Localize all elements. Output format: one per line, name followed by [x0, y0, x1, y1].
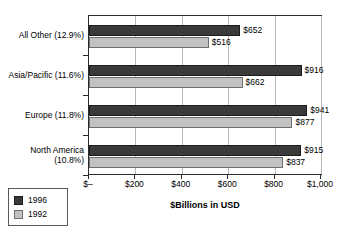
bar-chart: $652$516$916$662$941$877$915$837 All Oth…	[0, 0, 343, 232]
legend-label: 1992	[28, 209, 47, 219]
category-label-3: North America (10.8%)	[0, 145, 84, 165]
x-axis-tick-label: $–	[83, 179, 92, 189]
bar-1992-0	[89, 37, 209, 48]
x-axis-title: $Billions in USD	[88, 200, 322, 210]
bar-value-label: $837	[286, 157, 305, 168]
bar-value-label: $916	[305, 65, 324, 76]
legend: 19961992	[8, 188, 68, 226]
plot-area: $652$516$916$662$941$877$915$837	[88, 15, 322, 175]
bar-value-label: $516	[212, 37, 231, 48]
x-axis-tick-label: $400	[171, 179, 190, 189]
bar-group: $916$662	[89, 56, 321, 96]
x-axis-tick-label: $200	[125, 179, 144, 189]
category-label-1: Asia/Pacific (11.6%)	[0, 70, 84, 80]
x-axis-tick-label: $600	[218, 179, 237, 189]
bar-value-label: $877	[295, 117, 314, 128]
clipped-title-text	[0, 0, 343, 5]
bar-value-label: $652	[243, 25, 262, 36]
legend-swatch-icon	[14, 210, 23, 219]
bar-1996-3	[89, 145, 301, 156]
category-tick	[83, 95, 88, 96]
legend-item-1996[interactable]: 1996	[14, 193, 62, 207]
bar-group: $941$877	[89, 96, 321, 136]
bar-1992-3	[89, 157, 283, 168]
bar-value-label: $915	[304, 145, 323, 156]
legend-swatch-icon	[14, 196, 23, 205]
bar-value-label: $941	[310, 105, 329, 116]
legend-item-1992[interactable]: 1992	[14, 207, 62, 221]
bar-group: $652$516	[89, 16, 321, 56]
legend-label: 1996	[28, 195, 47, 205]
x-axis-tick-label: $800	[264, 179, 283, 189]
category-tick	[83, 135, 88, 136]
bar-1996-0	[89, 25, 240, 36]
bar-group: $915$837	[89, 136, 321, 176]
bar-1996-1	[89, 65, 302, 76]
bar-1996-2	[89, 105, 307, 116]
bar-1992-1	[89, 77, 243, 88]
category-label-0: All Other (12.9%)	[0, 30, 84, 40]
bar-value-label: $662	[246, 77, 265, 88]
category-label-2: Europe (11.8%)	[0, 110, 84, 120]
x-axis-tick-label: $1,000	[307, 179, 333, 189]
bar-1992-2	[89, 117, 292, 128]
category-tick	[83, 55, 88, 56]
